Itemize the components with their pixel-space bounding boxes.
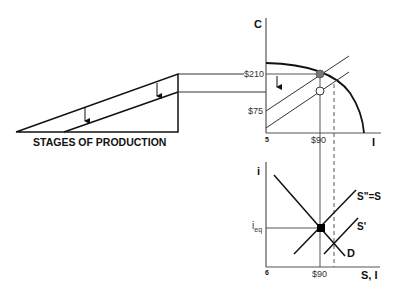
- initial-point-filled: [316, 70, 324, 78]
- panel-number: 5: [265, 136, 269, 143]
- lower-chart: i S, I 6 ieq D S"=S S' $90: [252, 162, 381, 281]
- panel-number: 6: [265, 269, 269, 276]
- tick-i-eq: ieq: [252, 220, 262, 234]
- tick-eq-subscript: eq: [254, 226, 262, 234]
- equilibrium-point: [317, 224, 325, 232]
- tick-210: $210: [244, 69, 264, 79]
- si-axis-label: S, I: [361, 269, 378, 281]
- stages-of-production-panel: STAGES OF PRODUCTION: [16, 74, 178, 148]
- tick-90-upper: $90: [311, 135, 326, 145]
- austrian-capital-diagram: STAGES OF PRODUCTION C I 5 $210 $75 $90: [0, 0, 398, 297]
- i-axis-label: I: [372, 136, 375, 148]
- tick-75: $75: [248, 106, 263, 116]
- tick-90-lower: $90: [312, 269, 327, 279]
- supply-combined-label: S"=S: [357, 191, 381, 202]
- i-rate-axis-label: i: [257, 165, 260, 177]
- stages-triangle-outer: [16, 74, 178, 132]
- supply-curve-combined: [294, 190, 356, 254]
- budget-line-lower: [266, 72, 349, 128]
- demand-label: D: [347, 247, 355, 259]
- supply-shifted-label: S': [357, 221, 366, 232]
- c-axis-label: C: [254, 18, 262, 30]
- stages-caption: STAGES OF PRODUCTION: [33, 136, 166, 148]
- stages-triangle-inner-line: [64, 92, 178, 132]
- new-point-open: [316, 87, 324, 95]
